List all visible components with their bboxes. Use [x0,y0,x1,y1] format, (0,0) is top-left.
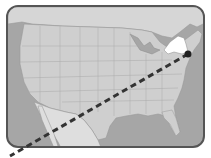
map-frame [6,5,205,148]
florida-peninsula [162,110,180,136]
us-map [8,7,205,148]
new-york-state [164,36,188,54]
